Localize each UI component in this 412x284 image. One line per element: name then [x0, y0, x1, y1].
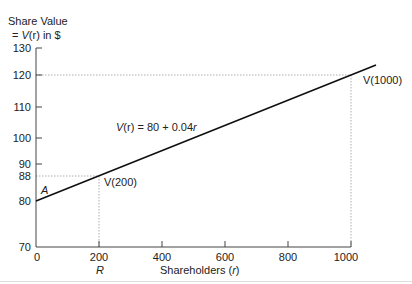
svg-text:200: 200: [90, 251, 108, 263]
svg-text:400: 400: [153, 251, 171, 263]
x-tick-labels: 0 200 400 600 800 1000: [34, 251, 358, 263]
svg-text:120: 120: [13, 69, 31, 81]
axes: [36, 48, 351, 247]
svg-text:800: 800: [279, 251, 297, 263]
reference-lines: [36, 75, 351, 247]
equation-label: V(r) = 80 + 0.04r: [116, 121, 198, 133]
v1000-label: V(1000): [363, 74, 402, 86]
point-a-label: A: [40, 184, 48, 196]
svg-text:130: 130: [13, 42, 31, 54]
y-axis-title-line1: Share Value: [8, 15, 68, 27]
y-tick-labels: 130 120 110 100 90 88 80 70: [13, 42, 31, 253]
value-line: [36, 65, 376, 201]
share-value-chart: Share Value = V(r) in $ 130 120 110 100 …: [0, 0, 412, 284]
svg-text:100: 100: [13, 132, 31, 144]
svg-text:1000: 1000: [334, 251, 358, 263]
bottom-divider: [0, 281, 412, 282]
svg-text:90: 90: [19, 158, 31, 170]
v200-label: V(200): [104, 176, 137, 188]
svg-text:600: 600: [216, 251, 234, 263]
svg-text:70: 70: [19, 241, 31, 253]
svg-text:0: 0: [34, 251, 40, 263]
r-label: R: [96, 264, 104, 276]
y-axis-title-line2: = V(r) in $: [12, 29, 61, 41]
x-axis-title: Shareholders (r): [160, 264, 240, 276]
svg-text:88: 88: [19, 170, 31, 182]
svg-text:110: 110: [13, 101, 31, 113]
svg-text:80: 80: [19, 195, 31, 207]
